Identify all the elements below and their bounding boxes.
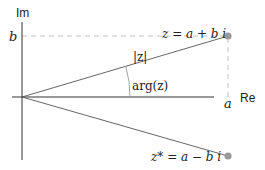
- b-tick-label: b: [9, 29, 17, 44]
- z-conjugate-vector: [22, 97, 228, 156]
- argument-label: arg(z): [132, 79, 168, 93]
- modulus-label: |z|: [133, 50, 147, 64]
- z-conjugate-expression-label: z* = a − b i: [150, 150, 221, 164]
- real-axis-label: Re: [240, 91, 256, 105]
- complex-plane-diagram: Im Re b a |z| arg(z) z = a + b i z* = a …: [0, 0, 265, 170]
- point-z-conjugate: [224, 152, 231, 159]
- argument-arc: [126, 66, 130, 97]
- z-expression-label: z = a + b i: [161, 27, 226, 41]
- a-tick-label: a: [224, 96, 232, 111]
- imag-axis-label: Im: [16, 6, 29, 20]
- z-vector: [22, 36, 228, 97]
